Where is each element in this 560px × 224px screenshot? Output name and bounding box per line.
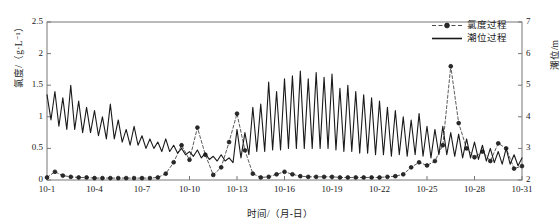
series-marker xyxy=(45,176,49,180)
series-marker xyxy=(180,143,184,147)
series-marker xyxy=(283,170,287,174)
series-marker xyxy=(393,174,397,178)
series-marker xyxy=(188,158,192,162)
series-marker xyxy=(449,64,453,68)
y-left-tick-label: 1 xyxy=(9,112,43,121)
chart-root: 氯度/（g·L⁻¹） 潮位/m 时间/（月-日） 00.511.522.5 23… xyxy=(0,0,560,224)
y-left-tick-label: 0.5 xyxy=(9,143,43,152)
y-left-tick-label: 2.5 xyxy=(9,17,43,26)
plot-frame xyxy=(47,22,522,180)
x-tick-label: 10-19 xyxy=(309,185,355,194)
y-left-tick-label: 0 xyxy=(9,175,43,184)
series-marker xyxy=(61,174,65,178)
series-marker xyxy=(346,176,350,180)
series-marker xyxy=(354,176,358,180)
series-marker xyxy=(124,176,128,180)
series-marker xyxy=(196,126,200,130)
x-tick-label: 10-1 xyxy=(24,185,70,194)
x-tick-label: 10-22 xyxy=(357,185,403,194)
series-marker xyxy=(378,176,382,180)
legend-swatch-dashed-marker-icon xyxy=(432,20,462,31)
series-marker xyxy=(172,160,176,164)
series-marker xyxy=(291,172,295,176)
series-marker xyxy=(77,176,81,180)
series-marker xyxy=(156,176,160,180)
x-tick-label: 10-10 xyxy=(167,185,213,194)
series-marker xyxy=(512,167,516,171)
series-marker xyxy=(386,175,390,179)
series-marker xyxy=(235,112,239,116)
series-marker xyxy=(314,175,318,179)
series-marker xyxy=(457,121,461,125)
series-marker xyxy=(322,175,326,179)
series-marker xyxy=(132,176,136,180)
series-marker xyxy=(243,148,247,152)
series-marker xyxy=(425,164,429,168)
series-marker xyxy=(101,176,105,180)
series-marker xyxy=(298,174,302,178)
x-tick-label: 10-4 xyxy=(72,185,118,194)
x-tick-label: 10-31 xyxy=(499,185,545,194)
y-right-tick-label: 2 xyxy=(526,175,560,184)
series-marker xyxy=(473,155,477,159)
series-marker xyxy=(116,176,120,180)
series-marker xyxy=(433,159,437,163)
x-tick-label: 10-16 xyxy=(262,185,308,194)
series-marker xyxy=(275,172,279,176)
series-marker xyxy=(441,143,445,147)
series-marker xyxy=(496,141,500,145)
series-marker xyxy=(520,164,524,168)
legend-label-tide: 潮位过程 xyxy=(467,32,507,45)
series-marker xyxy=(164,172,168,176)
series-marker xyxy=(140,176,144,180)
series-marker xyxy=(251,172,255,176)
x-tick-label: 10-7 xyxy=(119,185,165,194)
series-marker xyxy=(417,160,421,164)
series-marker xyxy=(401,172,405,176)
series-marker xyxy=(409,165,413,169)
series-marker xyxy=(148,176,152,180)
x-tick-label: 10-25 xyxy=(404,185,450,194)
series-marker xyxy=(330,175,334,179)
y-right-tick-label: 7 xyxy=(526,17,560,26)
series-marker xyxy=(488,159,492,163)
y-right-tick-label: 5 xyxy=(526,80,560,89)
y-left-tick-label: 2 xyxy=(9,49,43,58)
series-marker xyxy=(306,175,310,179)
x-tick-label: 10-13 xyxy=(214,185,260,194)
series-marker xyxy=(85,176,89,180)
series-marker xyxy=(370,176,374,180)
series-marker xyxy=(362,176,366,180)
series-marker xyxy=(108,176,112,180)
series-marker xyxy=(259,176,263,180)
series-line-tide xyxy=(47,71,522,166)
series-marker xyxy=(267,175,271,179)
x-tick-label: 10-28 xyxy=(452,185,498,194)
legend-item-salinity: 氯度过程 xyxy=(432,19,507,32)
series-marker xyxy=(93,176,97,180)
series-marker xyxy=(227,140,231,144)
series-marker xyxy=(219,165,223,169)
series-marker xyxy=(69,175,73,179)
y-right-tick-label: 4 xyxy=(526,112,560,121)
legend-swatch-solid-icon xyxy=(432,33,462,44)
series-marker xyxy=(211,173,215,177)
y-left-tick-label: 1.5 xyxy=(9,80,43,89)
legend: 氯度过程 潮位过程 xyxy=(432,19,507,45)
series-marker xyxy=(338,176,342,180)
y-right-tick-label: 3 xyxy=(526,143,560,152)
y-right-tick-label: 6 xyxy=(526,49,560,58)
legend-item-tide: 潮位过程 xyxy=(432,32,507,45)
legend-label-salinity: 氯度过程 xyxy=(467,19,507,32)
series-marker xyxy=(53,170,57,174)
